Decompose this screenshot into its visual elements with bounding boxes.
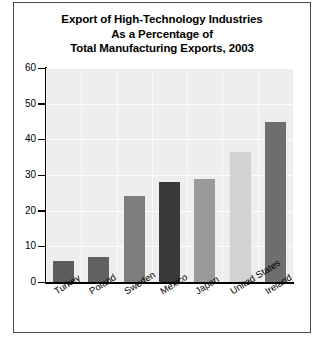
- gridline: [46, 68, 293, 69]
- chart-title-line-2: As a Percentage of: [13, 27, 311, 42]
- vertical-gridline: [152, 68, 153, 282]
- gridline: [46, 104, 293, 105]
- vertical-gridline: [222, 68, 223, 282]
- bar-sweden: [124, 196, 145, 282]
- vertical-gridline: [258, 68, 259, 282]
- chart-title-line-3: Total Manufacturing Exports, 2003: [13, 41, 311, 56]
- y-tick-mark: [38, 246, 46, 248]
- y-tick-mark: [38, 139, 46, 141]
- vertical-gridline: [187, 68, 188, 282]
- chart-title-line-1: Export of High-Technology Industries: [13, 12, 311, 27]
- y-tick-mark: [38, 103, 46, 105]
- y-tick-label: 20: [14, 206, 36, 216]
- y-tick-label: 10: [14, 241, 36, 251]
- y-tick-label: 0: [14, 277, 36, 287]
- bar-japan: [194, 179, 215, 282]
- y-tick-label: 40: [14, 134, 36, 144]
- y-tick-label: 30: [14, 170, 36, 180]
- y-tick-label: 60: [14, 63, 36, 73]
- vertical-gridline: [117, 68, 118, 282]
- chart-figure: Export of High-Technology Industries As …: [0, 0, 315, 349]
- gridline: [46, 139, 293, 140]
- gridline: [46, 175, 293, 176]
- bar-mexico: [159, 182, 180, 282]
- y-tick-label: 50: [14, 99, 36, 109]
- plot-area: [46, 68, 293, 282]
- bar-united-states: [230, 152, 251, 282]
- vertical-gridline: [81, 68, 82, 282]
- chart-title: Export of High-Technology Industries As …: [13, 12, 311, 56]
- y-tick-mark: [38, 210, 46, 212]
- y-tick-mark: [38, 68, 46, 70]
- y-tick-mark: [38, 282, 46, 284]
- vertical-gridline: [46, 68, 47, 282]
- y-tick-mark: [38, 175, 46, 177]
